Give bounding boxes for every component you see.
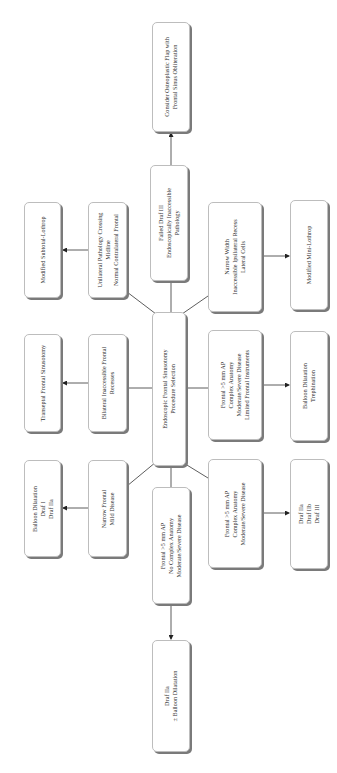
c1-line-1: Narrow Frontal xyxy=(100,489,108,527)
c6-line-2: Complex Anatomy xyxy=(227,350,235,420)
c2-line-1: Bilateral Inaccessible Frontal xyxy=(100,347,108,420)
connector-root-c5 xyxy=(182,296,208,314)
p1-line-1: Balloon Dilatation xyxy=(31,486,39,532)
root-line-1: Endoscopic Frontal Sinusotomy xyxy=(161,349,169,428)
procedure-node-p5: Modified Mini-Lothrop xyxy=(290,200,328,310)
p5-line-1: Modified Mini-Lothrop xyxy=(305,226,313,285)
connector-root-c7 xyxy=(182,462,208,478)
p1-line-3: Draf IIa xyxy=(47,486,55,532)
procedure-p7-text: Draf IIa Draf IIb Draf III xyxy=(297,504,321,524)
c6-line-1: Frontal >5 mm AP xyxy=(219,350,227,420)
procedure-p8-text: Draf IIa ± Balloon Dilatation xyxy=(163,671,179,722)
c5-line-3: Lateral Cells xyxy=(239,219,247,294)
flowchart-canvas: Endoscopic Frontal Sinusotomy Procedure … xyxy=(0,0,337,773)
c8-line-2: No Complex Anatomy xyxy=(167,514,175,577)
connector-root-c3 xyxy=(127,292,156,314)
c6-line-3: Moderate/Severe Disease xyxy=(235,350,243,420)
p4-line-2: Frontal Sinus Obliteration xyxy=(171,37,179,117)
procedure-p4-text: Consider Osteoplastic Flap with Frontal … xyxy=(163,37,179,117)
condition-node-c7: Frontal >5 mm AP Complex Anatomy Moderat… xyxy=(208,459,262,568)
procedure-p6-text: Balloon Dilatation Trephination xyxy=(301,363,317,409)
c4-line-3: Pathology xyxy=(173,188,181,258)
c4-line-2: Endoscopically Inaccessible xyxy=(165,188,173,258)
connector-root-c1 xyxy=(127,462,156,486)
c5-line-1: Narrow Width xyxy=(223,219,231,294)
root-node: Endoscopic Frontal Sinusotomy Procedure … xyxy=(152,312,186,466)
p6-line-2: Trephination xyxy=(309,363,317,409)
p8-line-2: ± Balloon Dilatation xyxy=(171,671,179,722)
condition-node-c6: Frontal >5 mm AP Complex Anatomy Moderat… xyxy=(208,330,262,440)
procedure-node-p1: Balloon Dilatation Draf I Draf IIa xyxy=(24,460,61,557)
procedure-p2-text: Transeptal Frontal Sinusotomy xyxy=(39,345,47,421)
c3-line-1: Unilateral Pathology Crossing xyxy=(96,213,104,288)
condition-c5-text: Narrow Width Inaccessible Ipsilateral Re… xyxy=(223,219,247,294)
condition-c4-text: Failed Draf III Endoscopically Inaccessi… xyxy=(157,188,181,258)
procedure-p5-text: Modified Mini-Lothrop xyxy=(305,226,313,285)
c3-line-2: Midline xyxy=(104,213,112,288)
condition-c1-text: Narrow Frontal Mild Disease xyxy=(100,489,116,527)
procedure-p3-text: Modified Subtotal-Lothrop xyxy=(39,216,47,283)
c4-line-1: Failed Draf III xyxy=(157,188,165,258)
root-node-text: Endoscopic Frontal Sinusotomy Procedure … xyxy=(161,349,177,428)
p1-line-2: Draf I xyxy=(39,486,47,532)
p3-line-1: Modified Subtotal-Lothrop xyxy=(39,216,47,283)
c7-line-3: Moderate/Severe Disease xyxy=(239,482,247,545)
p2-line-1: Transeptal Frontal Sinusotomy xyxy=(39,345,47,421)
p7-line-3: Draf III xyxy=(313,504,321,524)
condition-node-c4: Failed Draf III Endoscopically Inaccessi… xyxy=(150,165,188,281)
condition-node-c5: Narrow Width Inaccessible Ipsilateral Re… xyxy=(208,202,262,312)
condition-c6-text: Frontal >5 mm AP Complex Anatomy Moderat… xyxy=(219,350,251,420)
root-line-2: Procedure Selection xyxy=(169,349,177,428)
condition-node-c8: Frontal >5 mm AP No Complex Anatomy Mode… xyxy=(152,487,190,604)
c6-line-4: Limited Frontal Instruments xyxy=(243,350,251,420)
c1-line-2: Mild Disease xyxy=(108,489,116,527)
procedure-node-p2: Transeptal Frontal Sinusotomy xyxy=(24,334,61,432)
condition-c2-text: Bilateral Inaccessible Frontal Recesses xyxy=(100,347,116,420)
p6-line-1: Balloon Dilatation xyxy=(301,363,309,409)
condition-node-c1: Narrow Frontal Mild Disease xyxy=(88,460,127,557)
p8-line-1: Draf IIa xyxy=(163,671,171,722)
condition-c7-text: Frontal >5 mm AP Complex Anatomy Moderat… xyxy=(223,482,247,545)
condition-node-c2: Bilateral Inaccessible Frontal Recesses xyxy=(88,334,127,432)
p4-line-1: Consider Osteoplastic Flap with xyxy=(163,37,171,117)
condition-c3-text: Unilateral Pathology Crossing Midline No… xyxy=(96,213,120,288)
c2-line-2: Recesses xyxy=(108,347,116,420)
p7-line-1: Draf IIa xyxy=(297,504,305,524)
condition-node-c3: Unilateral Pathology Crossing Midline No… xyxy=(88,202,127,298)
procedure-p1-text: Balloon Dilatation Draf I Draf IIa xyxy=(31,486,55,532)
c8-line-1: Frontal >5 mm AP xyxy=(159,514,167,577)
procedure-node-p3: Modified Subtotal-Lothrop xyxy=(24,202,61,298)
c8-line-3: Moderate/Severe Disease xyxy=(175,514,183,577)
procedure-node-p4: Consider Osteoplastic Flap with Frontal … xyxy=(152,22,190,132)
c7-line-2: Complex Anatomy xyxy=(231,482,239,545)
c7-line-1: Frontal >5 mm AP xyxy=(223,482,231,545)
procedure-node-p7: Draf IIa Draf IIb Draf III xyxy=(290,459,328,569)
procedure-node-p6: Balloon Dilatation Trephination xyxy=(290,331,328,441)
c5-line-2: Inaccessible Ipsilateral Recess xyxy=(231,219,239,294)
condition-c8-text: Frontal >5 mm AP No Complex Anatomy Mode… xyxy=(159,514,183,577)
c3-line-3: Normal Contralateral Frontal xyxy=(112,213,120,288)
p7-line-2: Draf IIb xyxy=(305,504,313,524)
procedure-node-p8: Draf IIa ± Balloon Dilatation xyxy=(152,640,190,752)
